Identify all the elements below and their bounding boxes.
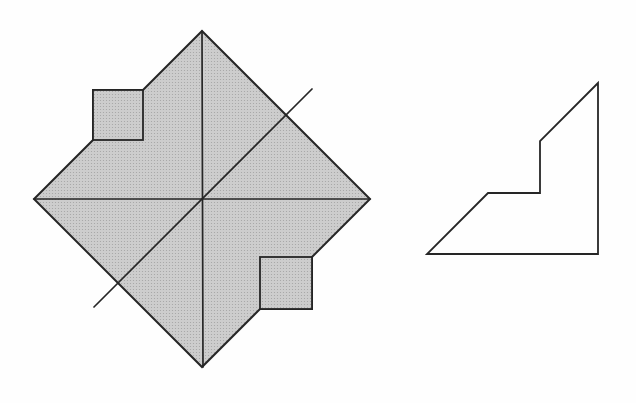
- notched-triangle-outline: [427, 83, 598, 254]
- upper-left-flap-square: [93, 90, 143, 140]
- geometry-diagram: [0, 0, 636, 403]
- lower-right-flap-square: [260, 257, 312, 309]
- folded-square-figure: [34, 31, 370, 367]
- unfolded-piece-figure: [427, 83, 598, 254]
- diagram-page: [0, 0, 636, 403]
